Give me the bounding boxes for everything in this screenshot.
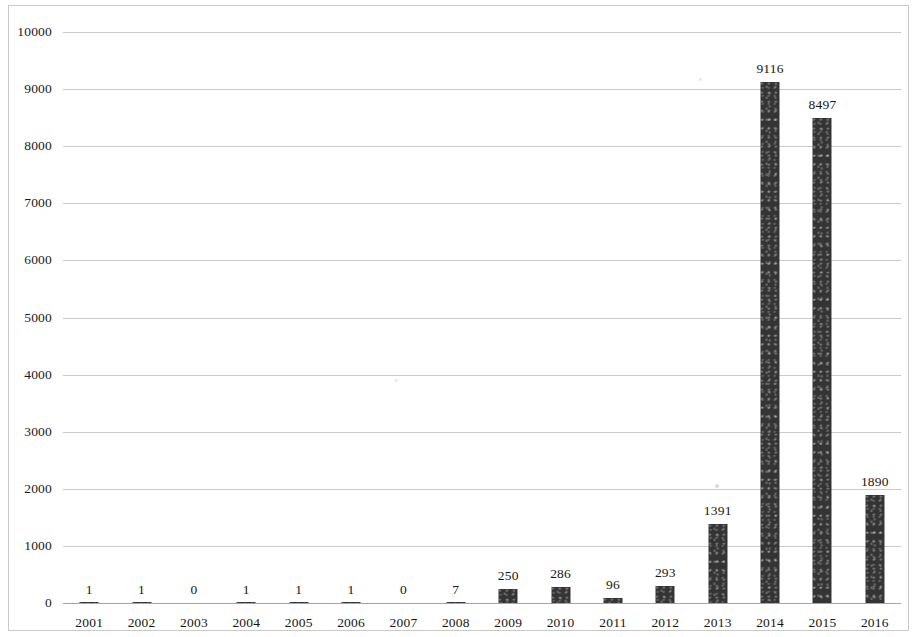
bar-group: 18902016 bbox=[849, 32, 901, 603]
bar-value-label: 8497 bbox=[809, 97, 837, 113]
scan-speck bbox=[715, 484, 719, 488]
bar bbox=[708, 524, 727, 603]
x-axis-tick-label: 2004 bbox=[232, 615, 260, 631]
y-axis-tick-label: 5000 bbox=[24, 310, 52, 326]
x-axis-tick-label: 2001 bbox=[75, 615, 103, 631]
bar-group: 13912013 bbox=[692, 32, 744, 603]
bar-value-label: 0 bbox=[190, 582, 197, 598]
y-axis-tick-label: 4000 bbox=[24, 367, 52, 383]
x-axis-tick-label: 2015 bbox=[809, 615, 837, 631]
x-axis-tick-label: 2006 bbox=[337, 615, 365, 631]
bar-value-label: 1 bbox=[348, 582, 355, 598]
bar bbox=[551, 587, 570, 603]
bar-group: 02007 bbox=[377, 32, 429, 603]
x-axis-tick-label: 2003 bbox=[180, 615, 208, 631]
bar-group: 12001 bbox=[63, 32, 115, 603]
bar bbox=[237, 602, 256, 604]
scan-speck bbox=[395, 379, 398, 382]
y-axis-tick-label: 10000 bbox=[17, 24, 52, 40]
chart-frame: 0100020003000400050006000700080009000100… bbox=[8, 5, 909, 631]
bar-value-label: 1 bbox=[86, 582, 93, 598]
bar-group: 12004 bbox=[220, 32, 272, 603]
bar-value-label: 1 bbox=[243, 582, 250, 598]
y-axis-tick-label: 0 bbox=[45, 595, 52, 611]
y-axis-tick-label: 3000 bbox=[24, 424, 52, 440]
bar bbox=[865, 495, 884, 603]
bar-group: 02003 bbox=[168, 32, 220, 603]
x-axis-tick-label: 2014 bbox=[756, 615, 784, 631]
x-axis-tick-label: 2011 bbox=[599, 615, 626, 631]
bar-group: 2932012 bbox=[639, 32, 691, 603]
x-axis-tick-label: 2012 bbox=[651, 615, 679, 631]
bar-value-label: 250 bbox=[498, 568, 519, 584]
bar-group: 72008 bbox=[430, 32, 482, 603]
x-axis-tick-label: 2009 bbox=[494, 615, 522, 631]
x-axis-tick-label: 2002 bbox=[128, 615, 156, 631]
bar-group: 2862010 bbox=[534, 32, 586, 603]
axis-baseline bbox=[63, 603, 901, 604]
x-axis-tick-label: 2016 bbox=[861, 615, 889, 631]
bar-value-label: 1 bbox=[295, 582, 302, 598]
y-axis-tick-label: 7000 bbox=[24, 195, 52, 211]
bar-group: 2502009 bbox=[482, 32, 534, 603]
y-axis-tick-label: 8000 bbox=[24, 138, 52, 154]
bar bbox=[603, 598, 622, 603]
x-axis-tick-label: 2013 bbox=[704, 615, 732, 631]
bar bbox=[132, 602, 151, 604]
bar-value-label: 286 bbox=[550, 566, 571, 582]
bar bbox=[289, 602, 308, 604]
bar bbox=[446, 602, 465, 604]
bar-value-label: 1890 bbox=[861, 474, 889, 490]
bar-group: 91162014 bbox=[744, 32, 796, 603]
bar-value-label: 1 bbox=[138, 582, 145, 598]
bar bbox=[342, 602, 361, 604]
bar-group: 12006 bbox=[325, 32, 377, 603]
y-axis-tick-label: 2000 bbox=[24, 481, 52, 497]
bar-group: 84972015 bbox=[796, 32, 848, 603]
scan-speck bbox=[699, 78, 702, 81]
bar-value-label: 293 bbox=[655, 565, 676, 581]
bar bbox=[80, 602, 99, 604]
bar-value-label: 0 bbox=[400, 582, 407, 598]
y-axis-tick-label: 1000 bbox=[24, 538, 52, 554]
bar-value-label: 96 bbox=[606, 577, 620, 593]
bar bbox=[499, 589, 518, 603]
x-axis-tick-label: 2010 bbox=[547, 615, 575, 631]
bar-group: 12005 bbox=[273, 32, 325, 603]
bar-value-label: 7 bbox=[452, 582, 459, 598]
bar-group: 962011 bbox=[587, 32, 639, 603]
bar bbox=[761, 82, 780, 603]
x-axis-tick-label: 2007 bbox=[390, 615, 418, 631]
bar bbox=[656, 586, 675, 603]
x-axis-tick-label: 2005 bbox=[285, 615, 313, 631]
bar-value-label: 9116 bbox=[756, 61, 783, 77]
y-axis-tick-label: 9000 bbox=[24, 81, 52, 97]
bar bbox=[813, 118, 832, 603]
bar-value-label: 1391 bbox=[704, 503, 732, 519]
x-axis-tick-label: 2008 bbox=[442, 615, 470, 631]
chart-plot-area: 0100020003000400050006000700080009000100… bbox=[63, 32, 901, 603]
y-axis-tick-label: 6000 bbox=[24, 252, 52, 268]
bar-group: 12002 bbox=[115, 32, 167, 603]
